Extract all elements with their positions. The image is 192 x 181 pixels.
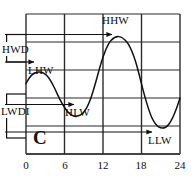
- x-tick-0: 0: [16, 159, 36, 171]
- label-hwd: HWD: [2, 43, 29, 55]
- label-lwdi: LWDI: [1, 105, 30, 117]
- x-tick-18: 18: [131, 159, 151, 171]
- label-llw: LLW: [148, 134, 172, 146]
- x-tick-6: 6: [55, 159, 75, 171]
- x-tick-12: 12: [93, 159, 113, 171]
- x-tick-24: 24: [170, 159, 190, 171]
- label-lhw: LHW: [28, 64, 54, 76]
- label-hlw: HLW: [65, 106, 90, 118]
- label-hhw: HHW: [102, 14, 129, 26]
- tidal-curve-figure: HHW LHW HLW LLW HWD LWDI C 0 6 12 18 24: [0, 0, 192, 181]
- crescent-moon-icon: C: [33, 128, 47, 147]
- tide-chart-svg: [0, 0, 192, 181]
